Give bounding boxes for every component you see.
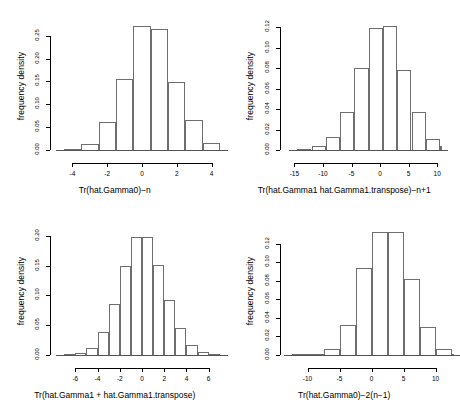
histogram-bar [397,70,411,150]
histogram-bar [185,120,202,150]
y-tick-label: 0.12 [264,234,270,252]
histogram-bar [168,82,185,150]
y-axis-label-text: frequency density [16,257,26,325]
y-tick-label: 0.12 [264,17,270,35]
baseline [284,355,460,356]
y-tick-mark [46,355,50,356]
x-tick-mark [209,368,210,372]
y-tick-mark [276,109,280,110]
y-tick-label: 0.15 [34,71,40,89]
x-axis-label: Tr(hat.Gamma0)−n [0,185,230,195]
histogram-bar [109,304,120,355]
x-tick-mark [72,163,73,167]
y-tick-mark [46,295,50,296]
x-tick-label: -6 [63,375,87,382]
x-tick-label: -4 [60,170,84,177]
x-tick-mark [75,368,76,372]
x-tick-mark [164,368,165,372]
x-tick-label: 0 [368,170,392,177]
y-tick-label: 0.00 [264,345,270,363]
histogram-bar [369,28,383,150]
y-tick-mark [276,244,280,245]
x-tick-label: -4 [86,375,110,382]
histogram-bar [153,265,164,355]
histogram-bar [404,279,420,355]
x-tick-label: 4 [174,375,198,382]
y-tick-mark [46,325,50,326]
x-tick-mark [98,368,99,372]
histogram-bar [116,79,133,150]
x-tick-label: -10 [311,170,335,177]
histogram-bar [120,266,131,355]
y-tick-mark [276,262,280,263]
y-axis-line [50,36,51,150]
histogram-bar [372,232,388,355]
histogram-bar [412,112,426,150]
y-tick-label: 0.05 [34,315,40,333]
y-tick-label: 0.00 [34,345,40,363]
x-tick-label: 6 [197,375,221,382]
x-tick-label: -2 [95,170,119,177]
y-tick-label: 0.10 [34,285,40,303]
histogram-bar [324,349,340,355]
y-tick-label: 0.08 [264,58,270,76]
x-axis-label: Tr(hat.Gamma1 hat.Gamma1.transpose)−n+1 [230,185,460,195]
x-tick-label: -5 [340,170,364,177]
y-tick-label: 0.10 [264,38,270,56]
x-tick-label: 10 [425,170,449,177]
y-tick-label: 0.06 [264,79,270,97]
histogram-bar [326,137,340,150]
x-tick-mark [142,368,143,372]
y-axis-label-text: frequency density [246,52,256,120]
histogram-bar [86,348,97,355]
x-tick-mark [186,368,187,372]
histogram-bar [356,268,372,355]
x-tick-mark [294,163,295,167]
x-tick-mark [323,163,324,167]
histogram-bar [340,112,354,150]
x-tick-mark [404,368,405,372]
x-tick-mark [107,163,108,167]
y-tick-mark [276,27,280,28]
y-tick-mark [276,336,280,337]
histogram-bar [142,237,153,355]
y-tick-label: 0.25 [34,26,40,44]
x-tick-mark [437,163,438,167]
y-axis-label: frequency density [14,221,28,361]
panel-top-right: frequency density0.000.020.040.060.080.1… [230,0,460,205]
panel-top-left: frequency density0.000.050.100.150.200.2… [0,0,230,205]
histogram-bar [426,139,440,150]
y-tick-label: 0.10 [264,252,270,270]
y-tick-mark [276,68,280,69]
x-tick-label: -5 [328,375,352,382]
y-tick-mark [46,59,50,60]
y-tick-mark [46,81,50,82]
y-tick-label: 0.00 [34,140,40,158]
x-tick-mark [380,163,381,167]
histogram-bar [164,300,175,355]
y-tick-mark [276,150,280,151]
x-tick-label: -15 [282,170,306,177]
y-tick-mark [46,266,50,267]
histogram-bar [151,29,168,150]
y-tick-label: 0.02 [264,120,270,138]
y-tick-label: 0.08 [264,271,270,289]
y-tick-label: 0.04 [264,99,270,117]
y-tick-mark [46,36,50,37]
y-tick-label: 0.20 [34,226,40,244]
y-tick-mark [276,130,280,131]
histogram-bar [99,122,116,150]
y-tick-label: 0.06 [264,289,270,307]
histogram-bar [186,345,197,355]
x-tick-label: 10 [424,375,448,382]
x-tick-label: 2 [165,170,189,177]
x-tick-mark [340,368,341,372]
y-tick-label: 0.20 [34,49,40,67]
histogram-bar [133,26,150,150]
x-tick-label: 5 [392,375,416,382]
x-tick-label: -2 [108,375,132,382]
y-tick-mark [276,89,280,90]
y-tick-label: 0.15 [34,256,40,274]
y-tick-mark [46,127,50,128]
